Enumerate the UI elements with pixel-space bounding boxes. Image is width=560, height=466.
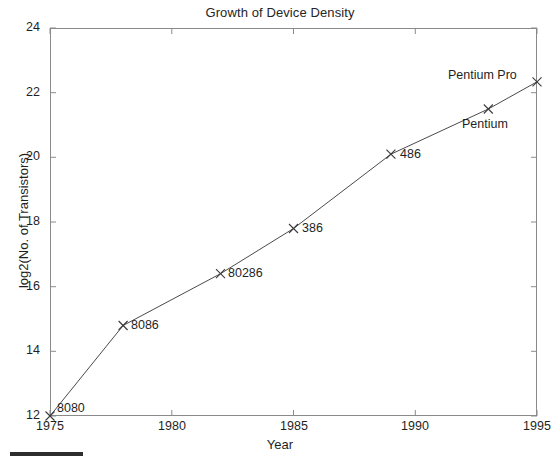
ytick-label-22: 22 (0, 85, 40, 99)
point-label-8080: 8080 (57, 401, 85, 415)
point-label-486: 486 (400, 147, 421, 161)
point-label-80286: 80286 (228, 266, 263, 280)
ytick-label-24: 24 (0, 20, 40, 34)
y-axis-title: log2(No. of Transistors) (16, 111, 31, 331)
ytick-label-14: 14 (0, 343, 40, 357)
xtick-label-1995: 1995 (507, 419, 560, 433)
xtick-label-1980: 1980 (142, 419, 202, 433)
point-label-8086: 8086 (131, 318, 159, 332)
xtick-label-1985: 1985 (264, 419, 324, 433)
point-label-pentium-pro: Pentium Pro (448, 68, 517, 82)
plot-area (50, 28, 537, 416)
x-axis-title: Year (0, 437, 560, 452)
point-label-386: 386 (302, 221, 323, 235)
point-label-pentium: Pentium (462, 117, 508, 131)
xtick-label-1990: 1990 (385, 419, 445, 433)
chart-title: Growth of Device Density (0, 5, 560, 20)
chart-figure: Growth of Device Density (0, 0, 560, 466)
xtick-label-1975: 1975 (20, 419, 80, 433)
bottom-rule-artifact (10, 452, 83, 456)
